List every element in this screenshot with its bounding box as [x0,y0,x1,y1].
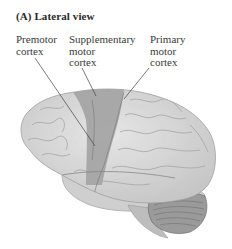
brain-illustration [0,0,232,249]
